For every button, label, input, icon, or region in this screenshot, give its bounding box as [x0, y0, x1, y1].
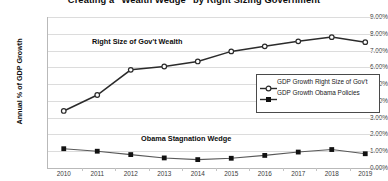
- annotation-obama-stagnation-wedge: Obama Stagnation Wedge: [141, 134, 231, 143]
- data-point-marker: [363, 151, 368, 156]
- chart-legend: GDP Growth Right Size of Gov'tGDP Growth…: [256, 74, 380, 113]
- data-point-marker: [195, 157, 200, 162]
- data-point-marker: [296, 150, 301, 155]
- legend-item[interactable]: GDP Growth Obama Policies: [260, 89, 376, 99]
- data-point-marker: [229, 156, 234, 161]
- data-point-marker: [329, 35, 334, 40]
- data-point-marker: [162, 64, 167, 69]
- data-point-marker: [162, 156, 167, 161]
- data-point-marker: [296, 39, 301, 44]
- data-point-marker: [61, 109, 66, 114]
- data-point-marker: [95, 93, 100, 98]
- data-point-marker: [262, 153, 267, 158]
- data-point-marker: [363, 40, 368, 45]
- legend-item-label: GDP Growth Obama Policies: [277, 89, 360, 97]
- series-2: [61, 146, 367, 162]
- legend-filled-square-icon: [260, 90, 277, 99]
- legend-item[interactable]: GDP Growth Right Size of Gov't: [260, 78, 376, 88]
- chart-title: Creating a "Wealth Wedge" by Right Sizin…: [0, 0, 388, 5]
- annotation-right-size-wealth: Right Size of Gov't Wealth: [92, 37, 182, 46]
- data-point-marker: [128, 68, 133, 73]
- data-point-marker: [195, 59, 200, 64]
- legend-item-label: GDP Growth Right Size of Gov't: [277, 78, 368, 86]
- data-point-marker: [262, 44, 267, 49]
- data-point-marker: [329, 147, 334, 152]
- x-tick-label: 2019: [345, 170, 385, 177]
- data-point-marker: [61, 146, 66, 151]
- data-point-marker: [128, 152, 133, 157]
- chart-container: Creating a "Wealth Wedge" by Right Sizin…: [0, 0, 388, 181]
- y-axis-title: Annual % of GDP Growth: [15, 32, 24, 132]
- data-point-marker: [229, 49, 234, 54]
- series-line: [64, 149, 366, 160]
- legend-open-circle-icon: [260, 79, 277, 88]
- data-point-marker: [95, 149, 100, 154]
